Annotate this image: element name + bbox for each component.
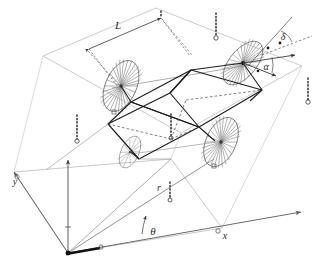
slip-angle-label: α <box>263 61 269 72</box>
wheel-radius-label: r <box>157 182 161 193</box>
axis-x-label: x <box>222 230 228 241</box>
origin-marker <box>66 251 71 256</box>
vehicle-kinematics-figure: L <box>0 0 327 267</box>
diagram-canvas: L <box>0 0 327 267</box>
figure-background <box>0 0 327 267</box>
heading-angle-label: θ <box>150 225 156 237</box>
axis-y-label: y <box>12 176 18 187</box>
wheelbase-label: L <box>114 19 121 31</box>
steering-angle-label: δ <box>281 31 286 42</box>
